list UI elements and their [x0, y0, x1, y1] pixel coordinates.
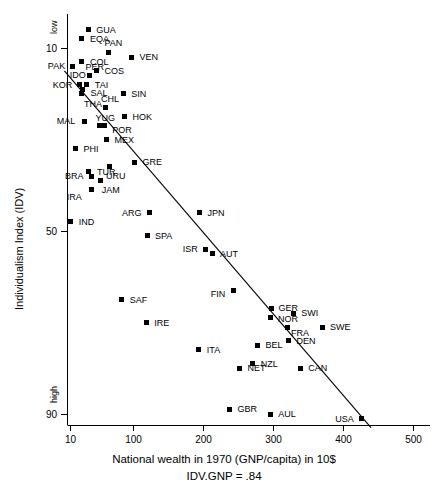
data-point-label: HOK — [133, 113, 153, 122]
data-point-marker — [121, 91, 126, 96]
y-tick-label: 90 — [19, 410, 57, 420]
data-point-label: GBR — [238, 405, 258, 414]
x-tick-label: 300 — [254, 435, 294, 445]
data-point-marker — [68, 219, 73, 224]
data-point-label: POR — [112, 126, 132, 135]
data-point-marker — [94, 68, 99, 73]
data-point-label: MAL — [57, 117, 76, 126]
data-point-label: CHL — [101, 95, 119, 104]
x-tick-label: 10 — [51, 435, 91, 445]
data-point-marker — [145, 233, 150, 238]
data-point-marker — [285, 325, 290, 330]
data-point-label: DEN — [296, 337, 315, 346]
data-point-marker — [89, 174, 94, 179]
data-point-label: BRA — [65, 172, 84, 181]
data-point-marker — [255, 343, 260, 348]
data-point-label: IND — [79, 218, 95, 227]
data-point-label: PAK — [48, 62, 65, 71]
data-point-label: YUG — [95, 114, 115, 123]
data-point-marker — [86, 27, 91, 32]
data-point-marker — [231, 288, 236, 293]
data-point-marker — [70, 64, 75, 69]
data-point-label: NET — [247, 364, 265, 373]
y-axis-high-label: high — [50, 386, 59, 403]
data-point-label: GRE — [142, 158, 162, 167]
x-axis-title: National wealth in 1970 (GNP/capita) in … — [0, 452, 448, 466]
data-point-marker — [147, 210, 152, 215]
data-point-label: ARG — [122, 209, 142, 218]
data-point-marker — [129, 55, 134, 60]
data-point-label: AUL — [278, 410, 296, 419]
data-point-label: SWI — [301, 309, 318, 318]
data-point-marker — [103, 105, 108, 110]
data-point-label: IRE — [154, 319, 169, 328]
x-tick-label: 100 — [114, 435, 154, 445]
data-point-label: PHI — [84, 145, 99, 154]
y-tick-label: 10 — [19, 44, 57, 54]
data-point-marker — [107, 164, 112, 169]
y-axis-ticks — [61, 49, 68, 415]
data-point-marker — [73, 146, 78, 151]
data-point-label: SWE — [330, 323, 351, 332]
data-point-label: COS — [105, 67, 125, 76]
regression-trend-line — [64, 71, 371, 428]
data-point-marker — [291, 311, 296, 316]
data-point-marker — [102, 123, 107, 128]
data-point-marker — [227, 407, 232, 412]
data-point-marker — [237, 366, 242, 371]
data-point-marker — [98, 178, 103, 183]
data-point-label: SIN — [131, 90, 146, 99]
data-point-label: THA — [84, 100, 102, 109]
data-point-marker — [286, 338, 291, 343]
data-point-marker — [79, 36, 84, 41]
data-point-label: CAN — [308, 364, 327, 373]
data-point-label: KOR — [53, 81, 73, 90]
data-point-marker — [89, 187, 94, 192]
x-axis-correlation-label: IDV.GNP = .84 — [0, 469, 448, 483]
data-point-label: IDO — [70, 71, 86, 80]
data-point-label: SPA — [155, 232, 172, 241]
data-point-marker — [104, 137, 109, 142]
data-point-marker — [144, 320, 149, 325]
data-point-marker — [132, 160, 137, 165]
data-point-marker — [203, 247, 208, 252]
data-point-label: BEL — [266, 341, 283, 350]
data-point-label: ITA — [207, 346, 220, 355]
x-tick-label: 500 — [394, 435, 434, 445]
data-point-label: SAF — [130, 296, 148, 305]
data-point-label: NOR — [278, 315, 298, 324]
data-point-marker — [79, 91, 84, 96]
data-point-label: JPN — [208, 209, 225, 218]
data-point-marker — [197, 210, 202, 215]
data-point-marker — [268, 412, 273, 417]
scatter-plot-figure: GUAEQAPANPAKCOLVENIDOPERCOSKORTAISALTHAC… — [0, 0, 448, 497]
data-point-marker — [196, 347, 201, 352]
data-point-label: VEN — [140, 53, 159, 62]
data-point-label: IRA — [67, 193, 82, 202]
data-point-label: JAM — [102, 186, 120, 195]
x-tick-label: 400 — [324, 435, 364, 445]
data-point-marker — [320, 325, 325, 330]
data-point-label: FIN — [211, 290, 226, 299]
data-point-marker — [210, 251, 215, 256]
data-point-label: AUT — [220, 250, 238, 259]
data-point-marker — [359, 416, 364, 421]
data-point-label: MEX — [114, 136, 134, 145]
y-axis-title: Individualism Index (IDV) — [14, 188, 25, 310]
data-point-marker — [268, 315, 273, 320]
data-point-marker — [122, 114, 127, 119]
data-point-marker — [87, 73, 92, 78]
data-point-marker — [106, 50, 111, 55]
data-point-marker — [82, 119, 87, 124]
data-point-marker — [119, 297, 124, 302]
data-point-label: ISR — [183, 245, 198, 254]
data-point-label: USA — [335, 415, 354, 424]
y-axis-low-label: low — [50, 20, 59, 34]
data-point-marker — [269, 306, 274, 311]
x-tick-label: 200 — [184, 435, 224, 445]
data-point-label: URU — [106, 172, 126, 181]
data-point-marker — [79, 59, 84, 64]
data-point-marker — [298, 366, 303, 371]
data-point-label: PAN — [105, 39, 123, 48]
